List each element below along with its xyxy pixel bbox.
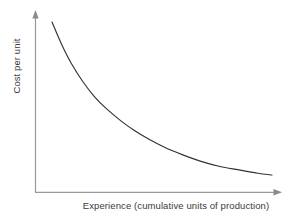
y-axis-label: Cost per unit bbox=[11, 38, 22, 93]
chart-background bbox=[0, 0, 301, 218]
x-axis-label: Experience (cumulative units of producti… bbox=[83, 200, 269, 211]
chart-canvas: Experience (cumulative units of producti… bbox=[0, 0, 301, 218]
experience-curve-chart: Experience (cumulative units of producti… bbox=[0, 0, 301, 218]
